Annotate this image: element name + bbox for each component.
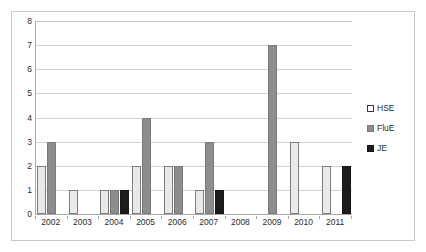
y-axis-tick-label: 6 (27, 65, 32, 74)
bar[interactable] (142, 118, 151, 215)
bar-slot (290, 21, 299, 214)
bar-group (194, 21, 226, 214)
bar-slot (152, 21, 161, 214)
bar[interactable] (110, 190, 119, 214)
bar-slot (37, 21, 46, 214)
x-axis-tick-mark (225, 216, 226, 219)
legend-item-label: JE (377, 144, 387, 153)
bar[interactable] (164, 166, 173, 214)
x-axis-tick-mark (288, 216, 289, 219)
bar-group (131, 21, 163, 214)
x-axis-tick-label: 2011 (326, 218, 344, 227)
bar-slot (164, 21, 173, 214)
bar[interactable] (205, 142, 214, 214)
bar-slot (205, 21, 214, 214)
x-axis-tick-mark (351, 216, 352, 219)
x-axis-tick-mark (256, 216, 257, 219)
y-axis-tick-label: 2 (27, 162, 32, 171)
chart-frame: 012345678 200220032004200520062007200820… (11, 11, 415, 241)
bar-slot (268, 21, 277, 214)
x-axis-tick-mark (35, 216, 36, 219)
x-axis-tick-mark (319, 216, 320, 219)
bar-slot (237, 21, 246, 214)
legend-item[interactable]: JE (367, 144, 413, 153)
bar-group (320, 21, 352, 214)
legend-swatch-flue-icon (367, 125, 374, 132)
bar-slot (227, 21, 236, 214)
x-axis: 2002200320042005200620072008200920102011 (35, 216, 351, 232)
x-axis-tick-label: 2002 (41, 218, 60, 227)
bar-slot (278, 21, 287, 214)
bar[interactable] (100, 190, 109, 214)
bar-slot (332, 21, 341, 214)
bars-layer (36, 21, 352, 214)
x-axis-tick-label: 2004 (105, 218, 124, 227)
chart-plot-wrapper: 012345678 200220032004200520062007200820… (12, 12, 414, 240)
bar[interactable] (342, 166, 351, 214)
bar-group (68, 21, 100, 214)
bar-group (257, 21, 289, 214)
y-axis-tick-label: 8 (27, 17, 32, 26)
bar-slot (247, 21, 256, 214)
bar-slot (300, 21, 309, 214)
bar-slot (47, 21, 56, 214)
bar-group (162, 21, 194, 214)
x-axis-tick-label: 2006 (168, 218, 187, 227)
y-axis-tick-label: 1 (27, 186, 32, 195)
bar-slot (132, 21, 141, 214)
legend-item-label: HSE (377, 104, 394, 113)
bar-slot (69, 21, 78, 214)
x-axis-tick-label: 2010 (294, 218, 313, 227)
x-axis-tick-label: 2003 (73, 218, 92, 227)
bar[interactable] (132, 166, 141, 214)
y-axis: 012345678 (16, 21, 32, 214)
x-axis-tick-mark (193, 216, 194, 219)
y-axis-tick-label: 3 (27, 137, 32, 146)
bar[interactable] (37, 166, 46, 214)
bar-slot (142, 21, 151, 214)
bar[interactable] (322, 166, 331, 214)
bar-slot (195, 21, 204, 214)
legend-item[interactable]: HSE (367, 104, 413, 113)
legend-item[interactable]: FluE (367, 124, 413, 133)
y-axis-tick-label: 0 (27, 210, 32, 219)
x-axis-tick-label: 2007 (199, 218, 218, 227)
bar-slot (89, 21, 98, 214)
x-axis-tick-mark (67, 216, 68, 219)
bar-slot (310, 21, 319, 214)
x-axis-tick-mark (98, 216, 99, 219)
y-axis-tick-label: 7 (27, 41, 32, 50)
y-axis-tick-label: 5 (27, 89, 32, 98)
bar-group (289, 21, 321, 214)
bar-group (99, 21, 131, 214)
bar-slot (184, 21, 193, 214)
x-axis-tick-label: 2005 (136, 218, 155, 227)
bar[interactable] (47, 142, 56, 214)
bar[interactable] (174, 166, 183, 214)
bar[interactable] (69, 190, 78, 214)
bar-slot (110, 21, 119, 214)
legend-swatch-hse-icon (367, 105, 374, 112)
legend-swatch-je-icon (367, 145, 374, 152)
bar[interactable] (268, 45, 277, 214)
bar-group (226, 21, 258, 214)
bar-group (36, 21, 68, 214)
plot-area (35, 21, 352, 215)
bar[interactable] (290, 142, 299, 214)
bar[interactable] (215, 190, 224, 214)
bar-slot (79, 21, 88, 214)
y-axis-tick-label: 4 (27, 113, 32, 122)
legend-item-label: FluE (377, 124, 394, 133)
bar-slot (120, 21, 129, 214)
x-axis-tick-mark (161, 216, 162, 219)
bar-slot (57, 21, 66, 214)
bar-slot (322, 21, 331, 214)
bar-slot (100, 21, 109, 214)
bar-slot (174, 21, 183, 214)
bar[interactable] (195, 190, 204, 214)
x-axis-tick-mark (130, 216, 131, 219)
bar-slot (258, 21, 267, 214)
bar-slot (342, 21, 351, 214)
bar[interactable] (120, 190, 129, 214)
x-axis-tick-label: 2008 (231, 218, 250, 227)
